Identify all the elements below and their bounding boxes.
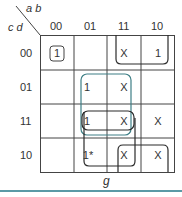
bottom-rule [0, 190, 182, 192]
cell-11-10: X [141, 115, 175, 127]
cell-10-10: X [141, 149, 175, 161]
cell-10-01: 1* [71, 149, 105, 161]
col-label-10: 10 [151, 20, 163, 32]
col-label-11: 11 [118, 20, 129, 32]
cell-00-11: X [107, 47, 141, 59]
row-label-00: 00 [20, 47, 32, 59]
output-function-label: g [103, 174, 110, 188]
col-label-00: 00 [50, 20, 62, 32]
cell-01-11: X [107, 81, 141, 93]
cell-00-10: 1 [141, 47, 175, 59]
row-label-10: 10 [20, 149, 32, 161]
col-label-01: 01 [84, 20, 96, 32]
cell-11-01: 1 [70, 115, 104, 127]
cell-11-11: X [107, 115, 141, 127]
cell-10-11: X [107, 149, 141, 161]
row-label-01: 01 [20, 81, 32, 93]
cell-00-00: 1 [40, 47, 74, 59]
row-label-11: 11 [20, 115, 31, 127]
top-variables-label: a b [26, 2, 41, 14]
left-variables-label: c d [8, 21, 23, 33]
cell-01-01: 1 [70, 81, 104, 93]
